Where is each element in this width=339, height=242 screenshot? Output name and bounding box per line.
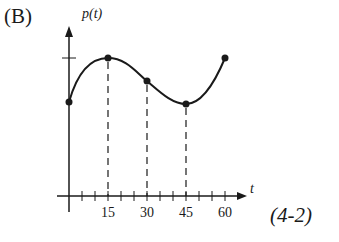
data-point <box>105 55 112 62</box>
data-point <box>183 101 190 108</box>
chart-canvas <box>0 0 339 242</box>
y-axis-arrow-icon <box>65 26 73 37</box>
data-point <box>66 99 73 106</box>
x-tick-label: 30 <box>140 205 154 221</box>
x-tick-label: 45 <box>179 205 193 221</box>
data-point <box>222 55 229 62</box>
data-point <box>144 78 151 85</box>
x-axis-arrow-icon <box>237 192 247 200</box>
x-tick-label: 60 <box>218 205 232 221</box>
x-tick-label: 15 <box>101 205 115 221</box>
